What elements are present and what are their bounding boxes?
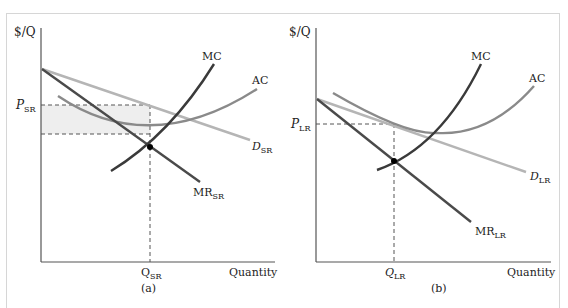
y-axis-label: $/Q (289, 25, 311, 39)
mc-curve (377, 64, 481, 170)
ac-curve (333, 86, 534, 133)
panel-a: $/Q PSR MC AC DSR MRSR QSR Quantity (a) (14, 25, 278, 295)
y-axis-label: $/Q (14, 25, 36, 39)
demand-curve (317, 99, 526, 172)
mc-label: MC (202, 50, 222, 63)
price-label: PLR (290, 117, 311, 133)
profit-area (41, 105, 150, 134)
mr-label: MRSR (193, 186, 225, 201)
ac-label: AC (251, 74, 268, 87)
mc-label: MC (471, 50, 491, 63)
panel-b: $/Q PLR MC AC DLR MRLR QLR Quantity (b) (289, 25, 556, 295)
x-axis-label: Quantity (507, 266, 556, 279)
x-axis-label: Quantity (229, 266, 278, 279)
quantity-label: QLR (385, 266, 406, 281)
mr-label: MRLR (475, 225, 507, 240)
mr-mc-intersection-point (147, 144, 153, 150)
quantity-label: QSR (141, 266, 163, 281)
ac-label: AC (528, 72, 545, 85)
panel-caption: (a) (141, 282, 156, 295)
demand-label: DSR (251, 140, 273, 155)
panel-caption: (b) (431, 282, 447, 295)
monopolistic-competition-diagram: $/Q PSR MC AC DSR MRSR QSR Quantity (a) … (0, 0, 568, 308)
mr-mc-intersection-point (391, 158, 397, 164)
price-label: PSR (15, 98, 37, 114)
demand-label: DLR (529, 170, 551, 185)
